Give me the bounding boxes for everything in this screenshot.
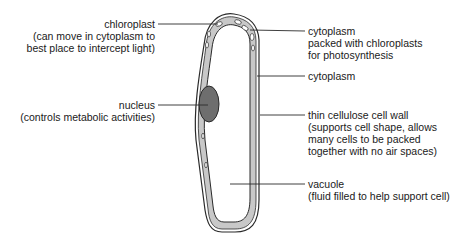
label-cell-wall-desc-2: many cells to be packed (308, 133, 437, 145)
label-cytoplasm-name: cytoplasm (308, 70, 355, 82)
label-nucleus-desc-1: (controls metabolic activities) (20, 111, 155, 123)
vacuole-shape (204, 25, 250, 222)
label-nucleus: nucleus (controls metabolic activities) (20, 99, 155, 123)
label-chloroplast: chloroplast (can move in cytoplasm to be… (27, 18, 155, 54)
label-cell-wall: thin cellulose cell wall (supports cell … (308, 109, 437, 157)
label-cytoplasm-chloroplasts-desc-2: for photosynthesis (308, 49, 422, 61)
label-cytoplasm-chloroplasts-desc-1: packed with chloroplasts (308, 37, 422, 49)
label-vacuole-desc-1: (fluid filled to help support cell) (308, 190, 450, 202)
label-cell-wall-desc-3: together with no air spaces) (308, 145, 437, 157)
nucleus-shape (199, 86, 219, 122)
label-chloroplast-desc-1: (can move in cytoplasm to (27, 30, 155, 42)
label-nucleus-name: nucleus (20, 99, 155, 111)
label-chloroplast-desc-2: best place to intercept light) (27, 42, 155, 54)
label-chloroplast-name: chloroplast (27, 18, 155, 30)
label-vacuole-name: vacuole (308, 178, 450, 190)
label-cell-wall-desc-1: (supports cell shape, allows (308, 121, 437, 133)
label-cytoplasm-chloroplasts: cytoplasm packed with chloroplasts for p… (308, 25, 422, 61)
leader-cytoplasm-chloroplasts (250, 30, 305, 31)
label-vacuole: vacuole (fluid filled to help support ce… (308, 178, 450, 202)
label-cytoplasm: cytoplasm (308, 70, 355, 82)
label-cytoplasm-chloroplasts-name: cytoplasm (308, 25, 422, 37)
label-cell-wall-name: thin cellulose cell wall (308, 109, 437, 121)
